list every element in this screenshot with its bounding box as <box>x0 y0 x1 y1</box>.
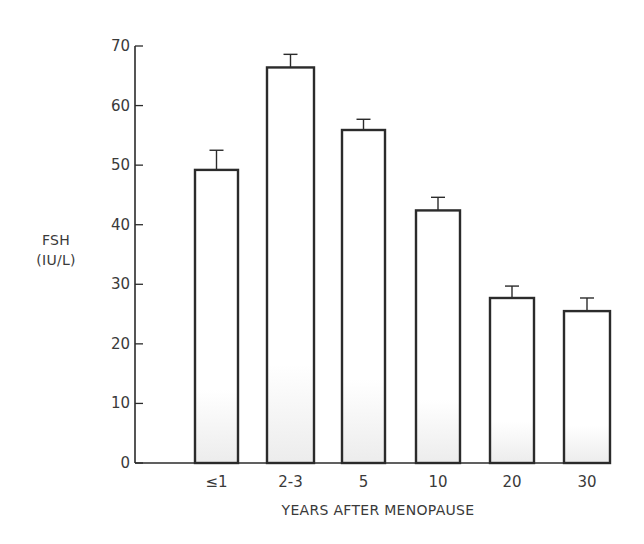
x-tick-label: 5 <box>359 473 369 491</box>
y-tick-label: 0 <box>120 454 130 472</box>
x-tick-label: ≤1 <box>205 473 227 491</box>
x-axis-title: YEARS AFTER MENOPAUSE <box>281 502 475 518</box>
bar-5 <box>564 298 610 463</box>
y-tick-label: 50 <box>111 156 130 174</box>
y-tick-label: 40 <box>111 216 130 234</box>
bar-2 <box>342 119 385 463</box>
bar-0 <box>195 150 238 463</box>
y-tick-label: 60 <box>111 97 130 115</box>
y-axis-title-line-1: FSH <box>42 232 70 248</box>
bar-rect <box>490 298 534 463</box>
y-tick-label: 70 <box>111 37 130 55</box>
fsh-bar-chart: 010203040506070 ≤12-35102030 FSH (IU/L) … <box>0 0 644 544</box>
x-tick-label: 2-3 <box>278 473 303 491</box>
y-tick-label: 10 <box>111 394 130 412</box>
bar-rect <box>416 210 460 463</box>
bar-rect <box>342 130 385 463</box>
x-tick-label: 30 <box>577 473 596 491</box>
y-tick-label: 20 <box>111 335 130 353</box>
x-tick-label: 10 <box>428 473 447 491</box>
y-tick-label: 30 <box>111 275 130 293</box>
bars <box>195 54 610 463</box>
bar-rect <box>564 311 610 463</box>
bar-rect <box>267 67 314 463</box>
y-axis-title: FSH (IU/L) <box>36 232 76 268</box>
bar-rect <box>195 170 238 463</box>
x-tick-label: 20 <box>502 473 521 491</box>
x-axis: ≤12-35102030 <box>135 463 610 491</box>
bar-3 <box>416 197 460 463</box>
bar-4 <box>490 286 534 463</box>
y-axis: 010203040506070 <box>111 37 143 472</box>
bar-1 <box>267 54 314 463</box>
y-axis-title-line-2: (IU/L) <box>36 252 76 268</box>
